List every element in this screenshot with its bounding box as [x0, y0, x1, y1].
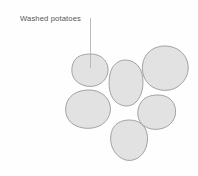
illustration-canvas: Washed potatoes [0, 0, 198, 176]
potato-middle [109, 60, 143, 106]
potato-top-right [142, 46, 188, 90]
potato-bottom-center [111, 120, 148, 160]
potato-right-lower [138, 95, 176, 129]
callout-label: Washed potatoes [20, 14, 81, 23]
potato-group [66, 46, 189, 160]
potato-diagram: Washed potatoes [0, 0, 198, 176]
potato-top-left [72, 54, 108, 86]
potato-left-lower [66, 90, 111, 128]
